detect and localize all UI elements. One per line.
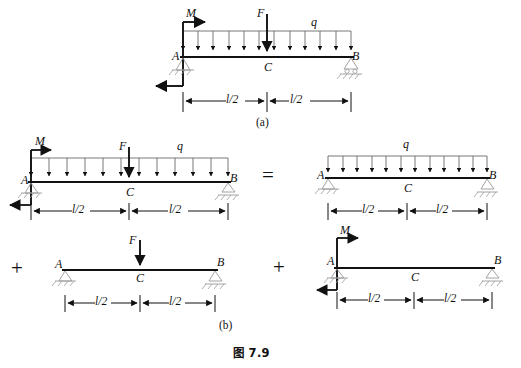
part-label-b: (b): [219, 320, 232, 332]
figure-canvas: M F q A B C l/2 l/2 (a) M F q A B C l/2 …: [0, 0, 521, 368]
dimension-label-b2-left: l/2: [362, 204, 374, 216]
node-label-a-b1: A: [21, 174, 28, 186]
node-label-c-b1: C: [126, 186, 134, 198]
node-label-a-b3: A: [55, 258, 62, 270]
node-label-b-b2: B: [489, 169, 496, 181]
node-label-c-a: C: [264, 61, 272, 73]
node-label-a-b2: A: [317, 169, 324, 181]
force-label-b1: F: [119, 140, 126, 152]
distributed-load-label-b1: q: [177, 140, 183, 152]
diagram-b-m-only-group: [317, 238, 503, 309]
moment-label-a: M: [186, 7, 196, 19]
moment-label-b1: M: [35, 135, 45, 147]
distributed-load-label-b2: q: [403, 138, 409, 150]
plus-operator-left: +: [11, 258, 23, 279]
moment-label-b2: M: [340, 224, 350, 236]
dimension-label-b3-right: l/2: [169, 296, 181, 308]
dimension-label-b2-right: l/2: [436, 204, 448, 216]
force-label-b2: F: [129, 234, 136, 246]
node-label-c-b4: C: [411, 271, 419, 283]
dimension-label-b1-left: l/2: [72, 204, 84, 216]
node-label-b-a: B: [352, 50, 359, 62]
node-label-c-b2: C: [404, 182, 412, 194]
diagram-b-combined-group: [10, 147, 239, 220]
part-label-a: (a): [256, 117, 269, 129]
distributed-load-label-a: q: [311, 16, 317, 28]
figure-caption: 图 7.9: [233, 344, 270, 360]
node-label-b-b3: B: [217, 256, 224, 268]
node-label-c-b3: C: [136, 272, 144, 284]
node-label-b-b4: B: [494, 254, 501, 266]
dimension-label-b1-right: l/2: [169, 204, 181, 216]
dimension-label-b4-right: l/2: [444, 293, 456, 305]
force-label-a: F: [257, 7, 264, 19]
equals-operator: =: [262, 165, 274, 186]
diagram-a-group: [156, 14, 362, 112]
node-label-a-b4: A: [327, 255, 334, 267]
dimension-label-b3-left: l/2: [95, 296, 107, 308]
beam-diagram-svg: [0, 0, 521, 368]
dimension-label-b4-left: l/2: [368, 293, 380, 305]
node-label-b-b1: B: [230, 172, 237, 184]
dimension-label-a-left: l/2: [226, 94, 238, 106]
plus-operator-right: +: [273, 257, 285, 278]
node-label-a-a: A: [172, 50, 179, 62]
dimension-label-a-right: l/2: [290, 94, 302, 106]
